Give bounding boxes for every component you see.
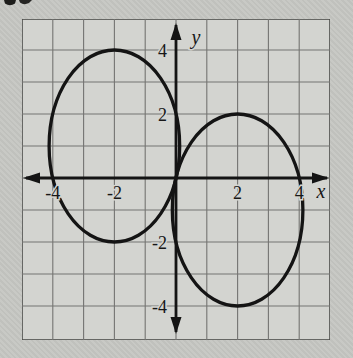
- y-tick-label: 2: [158, 105, 167, 125]
- y-tick-label: -4: [152, 297, 167, 317]
- x-tick-label: -4: [45, 183, 60, 203]
- y-tick-label: 4: [158, 41, 167, 61]
- page-background: -4-22442-2-4 y x: [0, 0, 353, 358]
- x-tick-label: -2: [107, 183, 122, 203]
- graph-canvas: -4-22442-2-4 y x: [22, 19, 330, 340]
- cropped-text-fragment: [2, 0, 36, 8]
- x-tick-label: 4: [295, 183, 304, 203]
- x-tick-label: 2: [233, 183, 242, 203]
- y-axis-name-label: y: [190, 26, 201, 49]
- y-tick-label: -2: [152, 233, 167, 253]
- x-axis-name-label: x: [316, 180, 326, 202]
